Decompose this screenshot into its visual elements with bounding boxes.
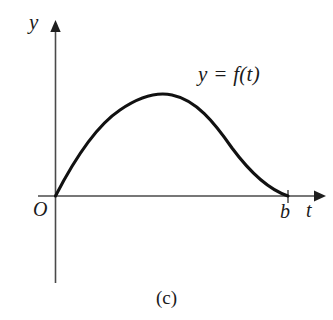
t-axis-label: t <box>306 200 312 220</box>
origin-label: O <box>33 199 47 219</box>
figure-container: y O y = f(t) b t (c) <box>0 0 333 320</box>
t-axis-arrowhead <box>314 191 326 202</box>
upper-limit-label: b <box>280 201 290 221</box>
figure-caption: (c) <box>0 288 333 307</box>
function-curve <box>56 94 289 196</box>
curve-equation-label: y = f(t) <box>198 64 260 85</box>
y-axis-label: y <box>29 12 38 33</box>
plot-canvas <box>0 0 333 320</box>
y-axis-arrowhead <box>50 20 60 32</box>
